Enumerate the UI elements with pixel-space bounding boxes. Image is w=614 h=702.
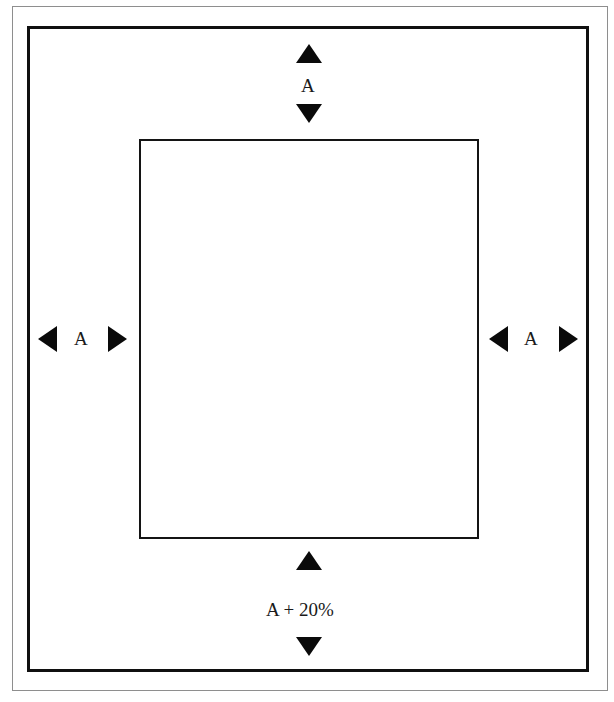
arrow-right-icon xyxy=(559,326,578,352)
arrow-down-icon xyxy=(296,637,322,656)
top-margin-label: A xyxy=(301,76,315,95)
arrow-right-icon xyxy=(108,326,127,352)
content-area-rectangle xyxy=(139,139,479,539)
bottom-margin-label: A + 20% xyxy=(266,600,334,619)
diagram-canvas: A A + 20% A A xyxy=(0,0,614,702)
left-margin-label: A xyxy=(74,329,88,348)
arrow-left-icon xyxy=(489,326,508,352)
right-margin-label: A xyxy=(524,329,538,348)
arrow-up-icon xyxy=(296,551,322,570)
arrow-left-icon xyxy=(38,326,57,352)
arrow-up-icon xyxy=(296,44,322,63)
arrow-down-icon xyxy=(296,104,322,123)
